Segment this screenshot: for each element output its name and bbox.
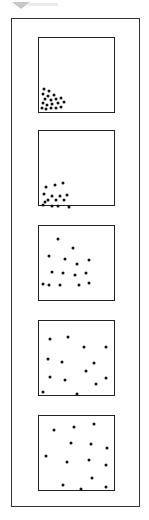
particle-dot <box>78 284 81 287</box>
particle-dot <box>45 186 48 189</box>
particle-dot <box>42 204 45 207</box>
particle-dot <box>68 206 71 209</box>
particle-dot <box>90 443 93 446</box>
particle-dot <box>64 379 67 382</box>
particle-dot <box>61 361 64 364</box>
particle-dot <box>51 205 54 208</box>
particle-dot <box>57 205 60 208</box>
particle-dot <box>53 429 56 432</box>
particle-dot <box>91 477 94 480</box>
particle-dot <box>74 274 77 277</box>
particle-dot <box>42 102 45 105</box>
particle-dot <box>47 358 50 361</box>
particle-dot <box>41 107 44 110</box>
particle-dot <box>59 195 62 198</box>
particle-dot <box>62 272 65 275</box>
particle-dot <box>57 102 60 105</box>
top-marker-fade <box>28 3 58 6</box>
particle-dot <box>54 184 57 187</box>
diffusion-panel-1 <box>38 37 115 113</box>
particle-dot <box>47 95 50 98</box>
particle-dot <box>51 103 54 106</box>
particle-dot <box>49 338 52 341</box>
diffusion-panel-2 <box>38 130 115 206</box>
particle-dot <box>62 484 65 487</box>
particle-dot <box>85 272 88 275</box>
particle-dot <box>64 258 67 261</box>
diffusion-panel-3 <box>38 225 115 301</box>
particle-dot <box>93 423 96 426</box>
particle-dot <box>88 282 91 285</box>
diffusion-panel-5 <box>38 415 115 491</box>
particle-dot <box>60 106 63 109</box>
particle-dot <box>47 199 50 202</box>
particle-dot <box>55 107 58 110</box>
particle-dot <box>55 199 58 202</box>
particle-dot <box>72 247 75 250</box>
particle-dot <box>43 193 46 196</box>
particle-dot <box>50 107 53 110</box>
diffusion-panel-4 <box>38 320 115 396</box>
particle-dot <box>66 194 69 197</box>
particle-dot <box>51 271 54 274</box>
particle-dot <box>42 283 45 286</box>
particle-dot <box>105 464 108 467</box>
particle-dot <box>59 284 62 287</box>
particle-dot <box>88 459 91 462</box>
particle-dot <box>62 182 65 185</box>
particle-dot <box>95 383 98 386</box>
particle-dot <box>55 98 58 101</box>
particle-dot <box>76 393 79 396</box>
particle-dot <box>105 377 108 380</box>
particle-dot <box>106 447 109 450</box>
particle-dot <box>57 238 60 241</box>
particle-dot <box>46 104 49 107</box>
particle-dot <box>42 93 45 96</box>
particle-dot <box>76 263 79 266</box>
particle-dot <box>83 346 86 349</box>
particle-dot <box>43 88 46 91</box>
particle-dot <box>63 199 66 202</box>
particle-dot <box>45 455 48 458</box>
particle-dot <box>88 259 91 262</box>
particle-dot <box>73 426 76 429</box>
particle-dot <box>70 442 73 445</box>
particle-dot <box>60 97 63 100</box>
particle-dot <box>48 90 51 93</box>
particle-dot <box>49 376 52 379</box>
particle-dot <box>80 488 83 491</box>
particle-dot <box>93 362 96 365</box>
particle-dot <box>42 391 45 394</box>
particle-dot <box>63 101 66 104</box>
particle-dot <box>105 346 108 349</box>
particle-dot <box>48 255 51 258</box>
particle-dot <box>48 284 51 287</box>
particle-dot <box>44 98 47 101</box>
particle-dot <box>44 201 47 204</box>
particle-dot <box>50 99 53 102</box>
particle-dot <box>53 94 56 97</box>
particle-dot <box>85 370 88 373</box>
particle-dot <box>67 336 70 339</box>
particle-dot <box>51 195 54 198</box>
particle-dot <box>66 461 69 464</box>
particle-dot <box>105 486 108 489</box>
particle-dot <box>45 108 48 111</box>
